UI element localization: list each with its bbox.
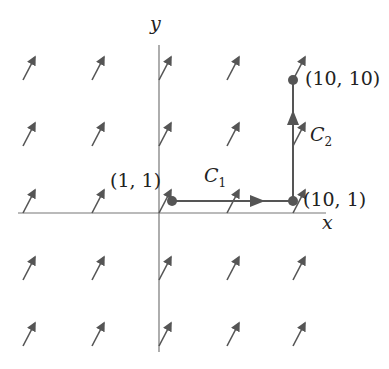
point-label-10-1: (10, 1) — [303, 190, 366, 209]
point-1-1 — [167, 196, 177, 206]
curve-label-c1: C1 — [204, 166, 226, 189]
vector-field-diagram: y x (1, 1) (10, 1) (10, 10) C1 C2 — [0, 0, 389, 369]
point-10-1 — [288, 196, 298, 206]
y-axis-label: y — [150, 14, 161, 33]
x-axis-label: x — [322, 213, 333, 232]
diagram-canvas — [0, 0, 389, 369]
c1-direction-arrow-icon — [250, 195, 265, 207]
point-label-10-10: (10, 10) — [305, 69, 380, 88]
curve-label-c2: C2 — [310, 125, 332, 148]
point-label-1-1: (1, 1) — [110, 171, 161, 190]
point-10-10 — [288, 75, 298, 85]
c2-direction-arrow-icon — [287, 110, 299, 125]
